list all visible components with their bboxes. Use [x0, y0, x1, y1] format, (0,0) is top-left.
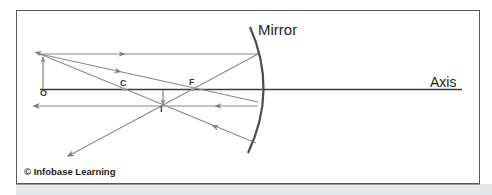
ray-center-curvature	[40, 54, 256, 143]
axis-label: Axis	[430, 74, 456, 90]
center-of-curvature-label: C	[120, 78, 127, 88]
image-label: I	[160, 104, 163, 114]
object-label: O	[40, 88, 47, 98]
point-f	[191, 88, 195, 92]
mirror-label: Mirror	[258, 21, 297, 38]
point-c	[122, 88, 126, 92]
copyright-notice: © Infobase Learning	[24, 166, 115, 177]
ray-focal-incident	[40, 54, 258, 102]
focal-point-label: F	[189, 77, 195, 87]
